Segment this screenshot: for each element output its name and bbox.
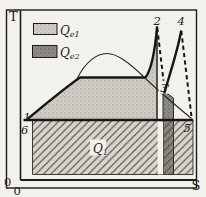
point-label-3prime: 3' (160, 82, 170, 94)
s-axis-label: S (192, 178, 201, 193)
gap-strip-below-line (158, 121, 163, 174)
point-label-1: 1 (24, 111, 31, 124)
ts-diagram-svg: Qe1 Qe2 Q1 T S 0 0 1 6 2 4 3' 5 (0, 0, 206, 197)
point-label-2: 2 (153, 14, 161, 28)
point-label-4: 4 (177, 14, 185, 28)
t-axis-label: T (9, 9, 18, 24)
point-label-6: 6 (21, 123, 28, 137)
ts-diagram-figure: Qe1 Qe2 Q1 T S 0 0 1 6 2 4 3' 5 (0, 0, 206, 197)
legend-swatch-qe2 (33, 46, 58, 58)
legend-swatch-qe1 (34, 24, 58, 35)
origin-zero-s: 0 (14, 184, 21, 197)
region-q1-hatching (33, 120, 194, 175)
point-label-5: 5 (184, 121, 191, 135)
origin-zero-t: 0 (4, 175, 11, 189)
